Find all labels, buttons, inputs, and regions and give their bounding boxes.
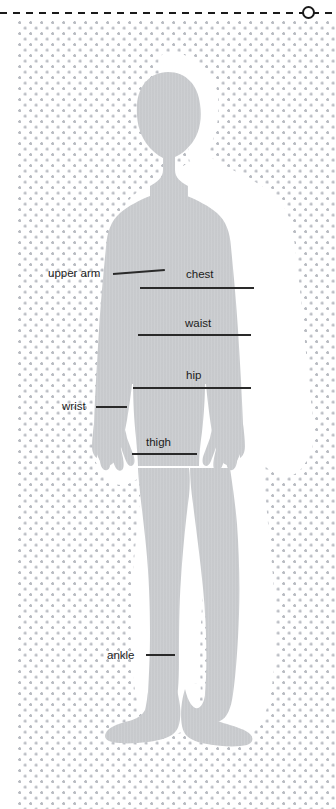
thigh-measure-line [132, 453, 197, 455]
wrist-label: wrist [62, 401, 86, 413]
waist-label: waist [185, 318, 211, 330]
chest-label: chest [186, 269, 214, 281]
waist-measure-line [138, 334, 251, 336]
ankle-measure-line [146, 654, 175, 656]
hip-label: hip [186, 370, 201, 382]
measurement-diagram-page: upper arm chest waist hip wrist thigh an… [0, 0, 336, 809]
hip-measure-line [133, 387, 251, 389]
ankle-label: ankle [107, 650, 135, 662]
chest-measure-line [140, 287, 254, 289]
wrist-measure-line [96, 406, 127, 408]
upper-arm-label: upper arm [48, 268, 100, 280]
thigh-label: thigh [146, 437, 171, 449]
child-body-silhouette [0, 0, 336, 809]
